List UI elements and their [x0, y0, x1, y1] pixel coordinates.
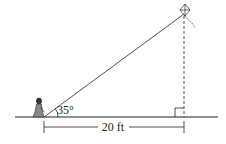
kite-string: [44, 14, 184, 117]
person-icon: [33, 98, 44, 117]
kite-icon: [180, 4, 195, 28]
right-angle-marker: [175, 108, 184, 117]
kite-diagram: 35° 20 ft: [0, 0, 226, 144]
angle-label: 35°: [57, 103, 74, 117]
distance-label: 20 ft: [102, 120, 125, 134]
